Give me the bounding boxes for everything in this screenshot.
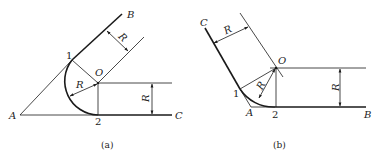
label-point-1: 1 (66, 50, 72, 61)
label-b: B (363, 109, 371, 120)
label-radius-vertical: R (330, 83, 341, 92)
label-radius-arc: R (75, 79, 84, 90)
panel-b-labels: C A B O 1 2 R R R (b) (200, 17, 371, 150)
label-o: O (278, 55, 286, 66)
label-c: C (200, 17, 208, 28)
label-radius-vertical: R (140, 94, 151, 103)
fillet-construction-diagram: A B C O 1 2 R R R (a) (0, 0, 374, 155)
label-b: B (126, 9, 134, 20)
caption-b: (b) (273, 140, 286, 150)
center-point-o (97, 82, 99, 84)
line-c-to-1 (205, 28, 240, 89)
label-c: C (175, 110, 183, 121)
label-point-2: 2 (272, 109, 278, 120)
label-a: A (8, 110, 16, 121)
label-a: A (245, 107, 253, 118)
label-radius-parallel: R (116, 30, 130, 44)
label-point-1: 1 (233, 88, 239, 99)
line-a-to-1 (20, 60, 72, 115)
line-1-to-b (72, 14, 122, 60)
panel-a-labels: A B C O 1 2 R R R (a) (8, 9, 183, 150)
label-point-2: 2 (95, 116, 101, 127)
center-point-o (275, 67, 277, 69)
label-o: O (95, 67, 103, 78)
caption-a: (a) (101, 140, 113, 150)
label-radius-arc: R (254, 79, 268, 92)
